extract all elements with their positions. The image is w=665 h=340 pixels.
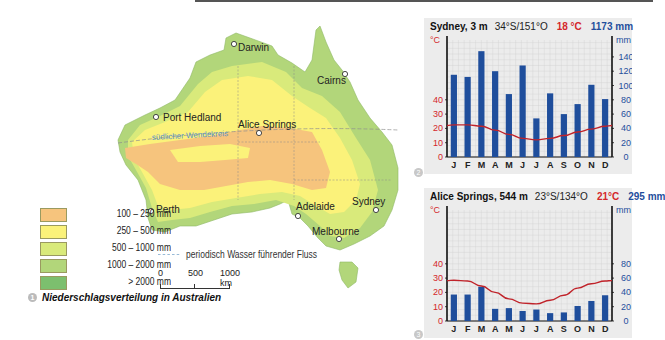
precip-bar	[533, 118, 539, 157]
left-axis-tick: 20	[433, 287, 443, 297]
chart-title: Sydney, 3 m	[430, 21, 488, 32]
temperature-line	[447, 280, 612, 304]
precip-bar	[478, 51, 484, 157]
legend-swatch	[40, 276, 67, 290]
scale-label-0: 0	[158, 268, 163, 278]
left-axis-tick: 20	[433, 123, 443, 133]
precip-bar	[588, 85, 594, 157]
month-label: J	[451, 160, 456, 170]
left-axis-unit: °C	[430, 35, 441, 45]
temperature-line	[447, 125, 612, 140]
right-axis-tick: 60	[621, 273, 631, 283]
month-label: M	[478, 324, 486, 334]
city-label: Alice Springs	[238, 119, 296, 130]
month-label: J	[520, 160, 525, 170]
legend-swatch	[40, 225, 67, 239]
precip-bar	[465, 295, 471, 321]
precip-bar	[492, 71, 498, 157]
scale-bar-line	[160, 284, 230, 289]
month-label: D	[602, 160, 609, 170]
left-axis-tick: 40	[433, 95, 443, 105]
legend-swatch	[40, 208, 67, 222]
right-axis-tick: 100	[618, 81, 632, 91]
precip-bar	[588, 301, 594, 321]
right-axis-unit: mm	[616, 35, 631, 45]
month-label: J	[451, 324, 456, 334]
month-label: F	[465, 160, 471, 170]
climate-chart-alice-springs: °Cmm010203040020406080JFMAMJJASOND Alice…	[424, 188, 632, 338]
dashed-river-symbol	[158, 254, 179, 255]
precip-bar	[602, 295, 608, 321]
left-axis-tick: 40	[433, 259, 443, 269]
precip-bar	[520, 65, 526, 157]
legend-swatch	[40, 242, 67, 256]
city-dot-icon	[256, 130, 261, 135]
legend-swatch	[40, 259, 67, 273]
right-axis-tick: 20	[621, 138, 631, 148]
chart-annual-precip: 1173 mm	[591, 21, 633, 32]
chart-title: Alice Springs, 544 m	[430, 191, 528, 202]
city-label: Adelaide	[296, 201, 335, 212]
city-port-hedland: Port Hedland	[153, 112, 221, 123]
precip-bar	[547, 313, 553, 321]
left-axis-unit: °C	[430, 205, 441, 215]
right-axis-tick: 40	[621, 123, 631, 133]
city-label: Sydney	[352, 196, 385, 207]
city-darwin: Darwin	[231, 41, 269, 53]
tasmania	[339, 262, 358, 288]
right-axis-tick: 0	[623, 316, 628, 326]
precip-bar	[520, 311, 526, 321]
caption-text: Niederschlagsverteilung in Australien	[42, 292, 221, 303]
river-legend: periodisch Wasser führender Fluss	[158, 249, 317, 260]
month-label: M	[505, 160, 513, 170]
month-label: A	[547, 160, 554, 170]
precip-bar	[451, 75, 457, 157]
month-label: A	[492, 324, 499, 334]
chart-coords: 23°S/134°O	[535, 191, 588, 202]
precip-bar	[575, 104, 581, 157]
climate-chart-plot: °Cmm010203040020406080100120140JFMAMJJAS…	[424, 18, 632, 174]
month-label: O	[574, 324, 581, 334]
city-label: Melbourne	[312, 226, 360, 237]
river-legend-label: periodisch Wasser führender Fluss	[186, 249, 317, 260]
month-label: J	[520, 324, 525, 334]
panel-number-badge: 3	[414, 330, 423, 339]
grid	[447, 210, 612, 321]
left-axis-tick: 10	[433, 302, 443, 312]
precip-bar	[478, 287, 484, 321]
precip-bar	[602, 99, 608, 157]
precip-bar	[492, 309, 498, 321]
precip-bar	[561, 312, 567, 321]
month-label: M	[478, 160, 486, 170]
chart-annual-precip: 295 mm	[628, 191, 665, 202]
left-axis-tick: 10	[433, 138, 443, 148]
scale-bar: 0 500 1000 km	[158, 268, 248, 292]
right-axis-tick: 60	[621, 109, 631, 119]
city-dot-icon	[336, 236, 341, 241]
month-label: N	[588, 160, 595, 170]
right-axis-tick: 80	[621, 95, 631, 105]
climate-chart-plot: °Cmm010203040020406080JFMAMJJASOND	[424, 188, 632, 338]
city-label: Darwin	[238, 42, 269, 53]
map-caption: 1Niederschlagsverteilung in Australien	[28, 292, 221, 303]
legend-label: 100 – 250 mm	[90, 208, 171, 219]
precip-bar	[506, 94, 512, 157]
chart-header: Sydney, 3 m34°S/151°O18 °C1173 mm	[430, 21, 630, 32]
right-axis-tick: 120	[618, 66, 632, 76]
month-label: J	[534, 324, 539, 334]
precip-bar	[465, 77, 471, 157]
chart-header: Alice Springs, 544 m23°S/134°O21°C295 mm	[430, 191, 630, 202]
scale-label-500: 500	[188, 268, 203, 278]
month-label: J	[534, 160, 539, 170]
city-dot-icon	[231, 41, 236, 46]
right-axis-unit: mm	[616, 205, 631, 215]
right-axis-tick: 40	[621, 287, 631, 297]
right-axis-tick: 80	[621, 259, 631, 269]
left-axis-tick: 0	[438, 152, 443, 162]
month-label: N	[588, 324, 595, 334]
panel-number-badge: 2	[414, 168, 423, 177]
right-axis-tick: 0	[623, 152, 628, 162]
right-axis-tick: 20	[621, 302, 631, 312]
precip-bar	[575, 306, 581, 321]
left-axis-tick: 30	[433, 109, 443, 119]
